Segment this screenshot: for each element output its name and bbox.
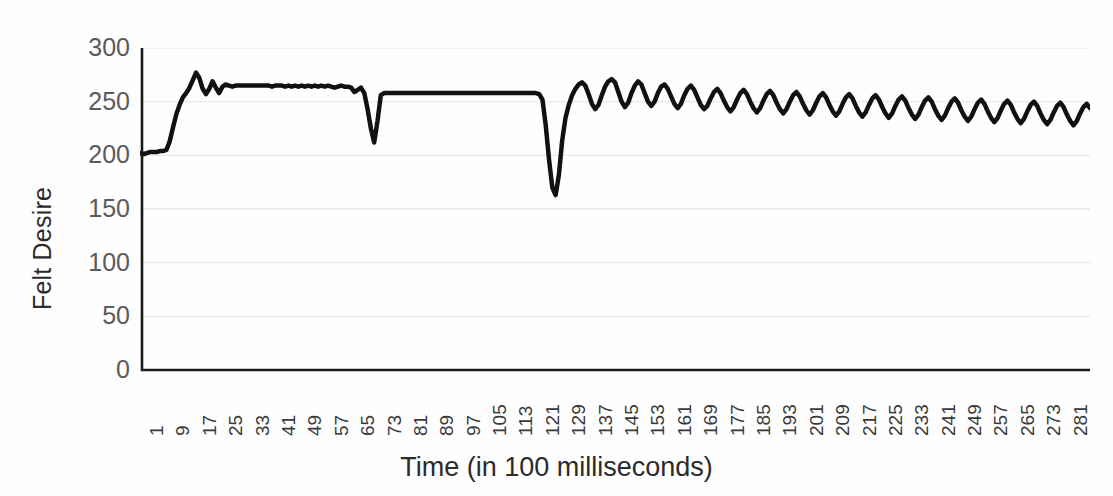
- x-tick-label: 129: [569, 404, 588, 436]
- y-tick-label: 0: [72, 357, 130, 382]
- x-tick-label: 161: [675, 404, 694, 436]
- x-tick-label: 1: [147, 425, 166, 436]
- x-tick-label: 17: [200, 415, 219, 436]
- x-tick-label: 257: [991, 404, 1010, 436]
- x-tick-label: 57: [332, 415, 351, 436]
- plot-area: [140, 48, 1090, 370]
- x-tick-label: 281: [1071, 404, 1090, 436]
- x-tick-label: 65: [358, 415, 377, 436]
- x-tick-label: 81: [411, 415, 430, 436]
- x-tick-label: 73: [385, 415, 404, 436]
- x-tick-label: 97: [464, 415, 483, 436]
- x-tick-label: 153: [648, 404, 667, 436]
- x-tick-label: 145: [622, 404, 641, 436]
- x-tick-label: 201: [807, 404, 826, 436]
- x-tick-label: 217: [860, 404, 879, 436]
- y-axis-tick-labels: 300250200150100500: [72, 0, 130, 420]
- x-tick-label: 41: [279, 415, 298, 436]
- axis-lines: [140, 48, 1092, 372]
- x-tick-label: 177: [728, 404, 747, 436]
- x-tick-label: 193: [780, 404, 799, 436]
- chart-figure: Felt Desire 300250200150100500 191725334…: [0, 0, 1113, 496]
- x-tick-label: 89: [437, 415, 456, 436]
- y-tick-label: 150: [72, 196, 130, 221]
- y-axis-label: Felt Desire: [28, 130, 68, 310]
- x-tick-label: 25: [226, 415, 245, 436]
- x-tick-label: 209: [833, 404, 852, 436]
- x-tick-label: 105: [490, 404, 509, 436]
- y-tick-label: 100: [72, 250, 130, 275]
- x-tick-label: 137: [596, 404, 615, 436]
- x-tick-label: 9: [173, 425, 192, 436]
- x-tick-label: 49: [305, 415, 324, 436]
- x-tick-label: 169: [701, 404, 720, 436]
- x-tick-label: 249: [965, 404, 984, 436]
- x-tick-label: 33: [253, 415, 272, 436]
- x-tick-label: 233: [912, 404, 931, 436]
- x-tick-label: 185: [754, 404, 773, 436]
- x-tick-label: 121: [543, 404, 562, 436]
- x-tick-label: 225: [886, 404, 905, 436]
- x-tick-label: 273: [1044, 404, 1063, 436]
- y-axis-label-container: Felt Desire: [0, 0, 60, 420]
- y-tick-label: 200: [72, 142, 130, 167]
- x-tick-label: 241: [939, 404, 958, 436]
- y-tick-label: 300: [72, 35, 130, 60]
- x-axis-label: Time (in 100 milliseconds): [0, 452, 1113, 483]
- y-tick-label: 50: [72, 303, 130, 328]
- x-tick-label: 265: [1018, 404, 1037, 436]
- y-tick-label: 250: [72, 89, 130, 114]
- x-tick-label: 113: [516, 406, 535, 436]
